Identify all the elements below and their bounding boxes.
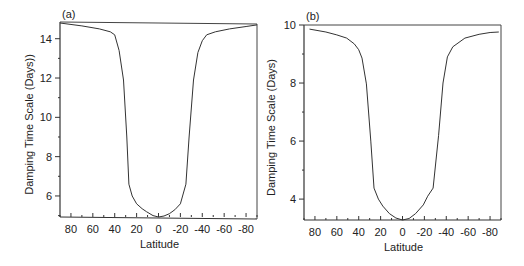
x-tick-label: -80	[238, 223, 254, 235]
data-series-line	[60, 23, 257, 217]
panel-label: (b)	[306, 10, 319, 22]
y-tick-label: 10	[40, 111, 52, 123]
y-tick-label: 6	[290, 135, 296, 147]
chart-figure: 806040200-20-40-60-8068101214LatitudeDam…	[0, 0, 524, 266]
y-tick-label: 8	[46, 151, 52, 163]
panel-label: (a)	[62, 8, 75, 20]
x-tick-label: -20	[416, 226, 432, 238]
data-series-line	[310, 29, 499, 220]
y-tick-label: 8	[290, 77, 296, 89]
y-tick-label: 10	[284, 19, 296, 31]
x-tick-label: -80	[482, 226, 498, 238]
x-tick-label: 0	[399, 226, 405, 238]
y-axis-label: Damping Time Scale (Days))	[23, 54, 35, 195]
x-tick-label: -20	[172, 223, 188, 235]
x-axis-label: Latitude	[384, 241, 423, 253]
chart-panel-b: 806040200-20-40-60-8046810LatitudeDampin…	[265, 10, 501, 253]
x-tick-label: -40	[194, 223, 210, 235]
x-tick-label: 20	[374, 226, 386, 238]
y-tick-label: 4	[290, 193, 296, 205]
x-axis-label: Latitude	[140, 238, 179, 250]
y-axis-label: Damping Time Scale (Days)	[265, 59, 277, 196]
y-tick-label: 12	[40, 72, 52, 84]
x-tick-label: -40	[438, 226, 454, 238]
x-tick-label: 40	[109, 223, 121, 235]
chart-panel-a: 806040200-20-40-60-8068101214LatitudeDam…	[23, 8, 257, 250]
x-tick-label: -60	[216, 223, 232, 235]
x-tick-label: 0	[155, 223, 161, 235]
x-tick-label: -60	[460, 226, 476, 238]
x-tick-label: 60	[87, 223, 99, 235]
x-tick-label: 80	[309, 226, 321, 238]
y-tick-label: 6	[46, 190, 52, 202]
x-tick-label: 40	[353, 226, 365, 238]
y-tick-label: 14	[40, 33, 52, 45]
plot-frame-top	[60, 22, 257, 24]
x-tick-label: 80	[65, 223, 77, 235]
x-tick-label: 20	[130, 223, 142, 235]
x-tick-label: 60	[331, 226, 343, 238]
